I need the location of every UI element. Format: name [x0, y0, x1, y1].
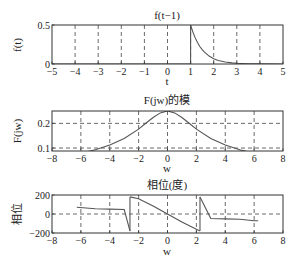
chart-canvas: f(t−1) t f(t) −5−4−3−2−101234500.5 F(jw)…: [0, 0, 300, 267]
y-axis-label: 相位: [10, 203, 23, 225]
x-tick-label: 5: [281, 66, 286, 77]
x-tick-label: 6: [252, 235, 257, 246]
x-tick-label: 0: [165, 153, 170, 164]
subplot-title: F(jw)的模: [144, 93, 190, 107]
data-line: [52, 25, 283, 64]
x-tick-label: 0: [165, 66, 170, 77]
figure: f(t−1) t f(t) −5−4−3−2−101234500.5 F(jw)…: [0, 0, 300, 267]
subplot-title: 相位(度): [147, 178, 188, 192]
subplot-time-signal: f(t−1) t f(t) −5−4−3−2−101234500.5: [11, 9, 286, 87]
x-tick-label: −6: [76, 235, 87, 246]
x-tick-label: 4: [257, 66, 262, 77]
y-tick-label: 0: [45, 209, 50, 220]
subplot-title: f(t−1): [154, 9, 180, 22]
x-tick-label: −6: [76, 153, 87, 164]
y-axis-label: f(t): [11, 38, 24, 52]
data-line: [200, 197, 258, 221]
x-tick-label: −2: [133, 235, 144, 246]
x-tick-label: 2: [194, 235, 199, 246]
x-tick-label: −1: [139, 66, 150, 77]
x-tick-label: −8: [47, 153, 58, 164]
x-tick-label: 4: [223, 153, 228, 164]
x-tick-label: 3: [234, 66, 239, 77]
x-tick-label: −2: [133, 153, 144, 164]
axes-box: [52, 25, 283, 64]
x-tick-label: 2: [194, 153, 199, 164]
x-tick-label: −2: [116, 66, 127, 77]
x-tick-label: −4: [104, 235, 115, 246]
x-axis-label: w: [163, 245, 171, 257]
x-tick-label: 8: [281, 153, 286, 164]
x-tick-label: 2: [211, 66, 216, 77]
y-tick-label: 0.2: [38, 118, 51, 129]
x-tick-label: 1: [188, 66, 193, 77]
data-line: [77, 207, 130, 231]
y-tick-label: 0.1: [38, 143, 51, 154]
x-tick-label: 6: [252, 153, 257, 164]
y-axis-label: F(jw): [11, 118, 24, 143]
subplot-phase: 相位(度) w 相位 −8−6−4−202468−2000200: [10, 178, 286, 257]
x-tick-label: −3: [93, 66, 104, 77]
y-tick-label: 200: [35, 190, 50, 201]
x-tick-label: −4: [104, 153, 115, 164]
y-tick-label: 0.5: [38, 20, 51, 31]
y-tick-label: −200: [29, 228, 50, 239]
subplot-magnitude: F(jw)的模 w F(jw) −8−6−4−2024680.10.2: [11, 93, 286, 174]
x-tick-label: 0: [165, 235, 170, 246]
x-tick-label: 4: [223, 235, 228, 246]
y-tick-label: 0: [45, 59, 50, 70]
x-tick-label: 8: [281, 235, 286, 246]
x-tick-label: −4: [70, 66, 81, 77]
axes-box: [52, 111, 283, 151]
